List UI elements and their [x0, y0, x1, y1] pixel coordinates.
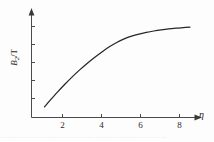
- y-axis-arrow-icon: [29, 8, 35, 16]
- x-tick-label-2: 2: [56, 121, 70, 130]
- y-axis-label-sub: 2: [13, 57, 20, 60]
- y-axis-label-unit: T: [9, 49, 19, 55]
- x-axis-label: η: [199, 110, 204, 120]
- y-axis-label-main: B: [9, 60, 19, 66]
- x-tick-label-4: 4: [95, 121, 109, 130]
- chart-figure: B2/T η 2 4 6 8 ·························…: [0, 0, 214, 142]
- y-axis-label-slash: /: [9, 54, 19, 57]
- x-axis-ticks: [63, 114, 180, 118]
- x-tick-label-8: 8: [173, 121, 187, 130]
- x-tick-label-6: 6: [134, 121, 148, 130]
- y-axis-label: B2/T: [10, 35, 21, 79]
- y-axis-ticks: [32, 27, 36, 99]
- page-caption-fragment: ········································…: [0, 134, 214, 142]
- data-curve: [44, 27, 189, 107]
